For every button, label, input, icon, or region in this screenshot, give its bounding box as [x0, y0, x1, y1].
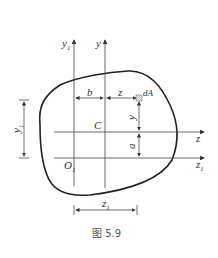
dim-a-label: a	[125, 143, 137, 149]
figure-caption: 图 5.9	[92, 228, 121, 239]
dim-y-label: y	[125, 115, 137, 121]
dA-element	[136, 95, 142, 101]
z-axis-label: z	[195, 132, 201, 144]
y-axis-label: y	[95, 37, 101, 49]
cross-section-diagram: y1 y z z1 O1 C dA b z y a y1 z1 图 5.9	[0, 0, 218, 258]
centroid-label: C	[94, 119, 102, 131]
section-outline	[40, 71, 177, 195]
dA-label: dA	[143, 88, 154, 98]
y1-axis-label: y1	[61, 37, 70, 52]
dim-z-label: z	[117, 86, 123, 98]
dim-b-label: b	[87, 86, 93, 98]
dim-y1-label: y1	[10, 125, 25, 134]
z1-axis-label: z1	[195, 158, 204, 173]
